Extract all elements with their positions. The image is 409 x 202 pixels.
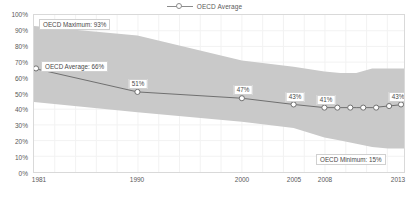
y-tick: 20% — [0, 138, 28, 145]
data-label-2000: 47% — [234, 85, 253, 95]
y-tick: 50% — [0, 90, 28, 97]
minimum-callout: OECD Minimum: 15% — [316, 154, 386, 165]
y-tick: 60% — [0, 74, 28, 81]
x-tick: 2005 — [287, 176, 301, 183]
y-tick: 80% — [0, 42, 28, 49]
data-label-2005: 43% — [286, 92, 305, 102]
y-tick: 10% — [0, 154, 28, 161]
data-label-1990: 51% — [129, 79, 148, 89]
y-tick: 0% — [0, 170, 28, 177]
y-tick: 100% — [0, 11, 28, 18]
data-label-2013: 43% — [389, 92, 405, 102]
x-tick: 1981 — [32, 176, 46, 183]
oecd-average-line — [34, 15, 404, 172]
x-axis: 1981 1990 2000 2005 2008 2013 — [33, 176, 405, 190]
plot-area: OECD Maximum: 93% OECD Average: 66% OECD… — [33, 14, 405, 173]
line-circle-marker-icon — [167, 2, 193, 11]
average-callout: OECD Average: 66% — [41, 61, 108, 72]
legend-label-oecd-average: OECD Average — [197, 3, 243, 10]
x-tick: 2008 — [318, 176, 332, 183]
y-tick: 30% — [0, 122, 28, 129]
data-label-2008: 41% — [317, 95, 336, 105]
oecd-range-chart: OECD Average 100% 90% 80% 70% 60% 50% 40… — [0, 0, 409, 202]
y-tick: 70% — [0, 58, 28, 65]
x-tick: 2000 — [235, 176, 249, 183]
y-tick: 90% — [0, 26, 28, 33]
x-tick: 2013 — [391, 176, 405, 183]
maximum-callout: OECD Maximum: 93% — [39, 19, 110, 30]
y-tick: 40% — [0, 106, 28, 113]
x-tick: 1990 — [130, 176, 144, 183]
chart-legend: OECD Average — [0, 2, 409, 11]
y-axis: 100% 90% 80% 70% 60% 50% 40% 30% 20% 10%… — [0, 14, 31, 173]
